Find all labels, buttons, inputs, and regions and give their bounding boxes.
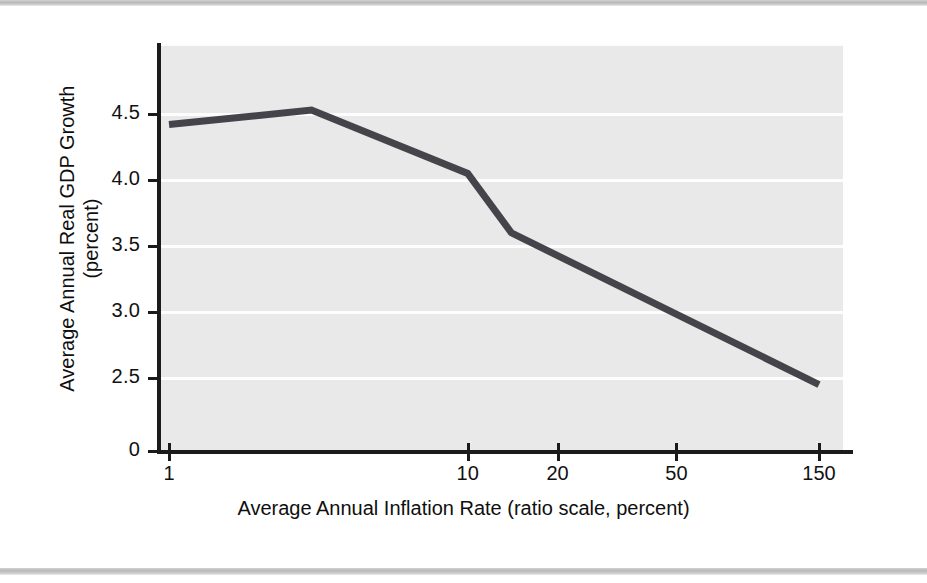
chart-area: 2.53.03.54.04.50 1102050150 Average Annu… bbox=[0, 0, 927, 560]
x-tick-label-10: 10 bbox=[423, 462, 513, 485]
y-tick-2.5 bbox=[148, 377, 161, 380]
y-tick-4.5 bbox=[148, 113, 161, 116]
x-axis-title: Average Annual Inflation Rate (ratio sca… bbox=[0, 497, 927, 520]
x-tick-label-150: 150 bbox=[774, 462, 864, 485]
y-tick-0 bbox=[148, 450, 161, 453]
y-tick-4.0 bbox=[148, 179, 161, 182]
x-tick-1 bbox=[168, 443, 171, 461]
y-tick-3.0 bbox=[148, 311, 161, 314]
y-axis-title-main: Average Annual Real GDP Growth bbox=[56, 86, 78, 392]
figure-container: 2.53.03.54.04.50 1102050150 Average Annu… bbox=[0, 0, 927, 583]
x-tick-10 bbox=[467, 443, 470, 461]
y-axis-line bbox=[157, 43, 161, 454]
x-tick-label-20: 20 bbox=[513, 462, 603, 485]
gdp-growth-line bbox=[169, 110, 819, 385]
y-tick-3.5 bbox=[148, 245, 161, 248]
x-tick-label-50: 50 bbox=[631, 462, 721, 485]
x-tick-label-1: 1 bbox=[124, 462, 214, 485]
bottom-edge-band bbox=[0, 568, 927, 575]
y-axis-title: Average Annual Real GDP Growth (percent) bbox=[56, 29, 103, 449]
x-axis-line bbox=[157, 450, 853, 454]
x-tick-50 bbox=[675, 443, 678, 461]
x-tick-20 bbox=[557, 443, 560, 461]
x-tick-150 bbox=[818, 443, 821, 461]
y-axis-title-units: (percent) bbox=[80, 29, 104, 449]
